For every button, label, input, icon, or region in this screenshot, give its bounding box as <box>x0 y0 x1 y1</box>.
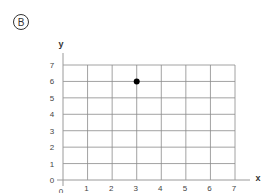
x-tick-label: 7 <box>232 184 237 193</box>
y-tick-label: 6 <box>50 77 55 86</box>
x-tick-label: 3 <box>133 184 138 193</box>
x-tick-labels: 01234567 <box>59 184 237 193</box>
x-tick-label: 0 <box>59 187 64 193</box>
y-tick-label: 2 <box>50 143 55 152</box>
data-points <box>134 78 140 84</box>
y-tick-label: 3 <box>50 127 55 136</box>
grid-lines <box>63 65 235 180</box>
y-tick-label: 1 <box>50 160 55 169</box>
y-axis-label: y <box>58 39 63 49</box>
data-point <box>134 78 140 84</box>
x-tick-label: 4 <box>158 184 163 193</box>
x-axis-label: x <box>255 173 260 183</box>
y-tick-label: 0 <box>50 176 55 185</box>
x-tick-label: 1 <box>84 184 89 193</box>
y-tick-label: 5 <box>50 94 55 103</box>
x-tick-label: 2 <box>109 184 114 193</box>
y-tick-label: 4 <box>50 110 55 119</box>
panel-badge: B <box>14 15 29 30</box>
badge-label: B <box>18 17 25 28</box>
y-tick-labels: 01234567 <box>50 61 55 185</box>
coordinate-grid-chart: B 01234567 01234567 y x <box>0 0 275 193</box>
y-tick-label: 7 <box>50 61 55 70</box>
axes <box>57 53 250 186</box>
x-tick-label: 5 <box>183 184 188 193</box>
x-tick-label: 6 <box>207 184 212 193</box>
